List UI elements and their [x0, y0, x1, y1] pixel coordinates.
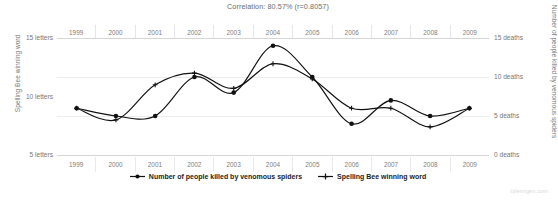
- left-tick-15: 15 letters: [26, 34, 53, 41]
- series-line: [77, 46, 470, 125]
- top-year-axis: 1999200020012002200320042005200620072008…: [57, 25, 489, 39]
- data-point[interactable]: [114, 118, 119, 123]
- top-year-2008: 2008: [410, 25, 449, 39]
- bottom-year-2009: 2009: [450, 157, 489, 172]
- top-year-1999: 1999: [57, 25, 95, 39]
- data-point[interactable]: [271, 44, 276, 49]
- data-point[interactable]: [192, 71, 197, 76]
- series-line: [77, 64, 470, 127]
- series-layer: [57, 38, 489, 155]
- right-tick-5: 5 deaths: [494, 112, 519, 119]
- data-point[interactable]: [388, 106, 393, 111]
- data-point[interactable]: [349, 122, 354, 127]
- bottom-year-2005: 2005: [292, 157, 331, 172]
- data-point[interactable]: [231, 86, 236, 91]
- bottom-year-1999: 1999: [57, 157, 95, 172]
- top-year-2001: 2001: [135, 25, 174, 39]
- legend-item-1[interactable]: Spelling Bee winning word: [318, 172, 426, 181]
- top-year-2002: 2002: [174, 25, 213, 39]
- bottom-year-2004: 2004: [253, 157, 292, 172]
- bottom-year-axis: 1999200020012002200320042005200620072008…: [57, 157, 489, 172]
- bottom-year-2007: 2007: [371, 157, 410, 172]
- plus-marker-icon: [318, 172, 333, 181]
- top-year-2000: 2000: [95, 25, 134, 39]
- left-tick-10: 10 letters: [26, 93, 53, 100]
- bottom-year-2006: 2006: [332, 157, 371, 172]
- top-year-2006: 2006: [332, 25, 371, 39]
- plot-area: [57, 38, 489, 155]
- left-tick-5: 5 letters: [30, 151, 53, 158]
- data-point[interactable]: [271, 61, 276, 66]
- bottom-year-2000: 2000: [95, 157, 134, 172]
- data-point[interactable]: [428, 125, 433, 130]
- data-point[interactable]: [231, 90, 236, 95]
- top-year-2007: 2007: [371, 25, 410, 39]
- data-point[interactable]: [467, 106, 472, 111]
- legend-item-0[interactable]: Number of people killed by venomous spid…: [130, 172, 302, 181]
- bottom-year-2008: 2008: [410, 157, 449, 172]
- bottom-year-2001: 2001: [135, 157, 174, 172]
- round-marker-icon: [130, 172, 145, 181]
- top-year-2009: 2009: [450, 25, 489, 39]
- right-tick-10: 10 deaths: [494, 73, 523, 80]
- right-tick-15: 15 deaths: [494, 34, 523, 41]
- data-point[interactable]: [153, 114, 158, 119]
- legend-label-0: Number of people killed by venomous spid…: [149, 173, 302, 180]
- top-year-2004: 2004: [253, 25, 292, 39]
- top-year-2005: 2005: [292, 25, 331, 39]
- series-spiders: [74, 44, 471, 127]
- chart-title: Correlation: 80.57% (r=0.8057): [0, 2, 556, 11]
- data-point[interactable]: [428, 114, 433, 119]
- data-point[interactable]: [349, 106, 354, 111]
- right-axis-title: Number of people killed by venomous spid…: [551, 0, 558, 152]
- bottom-year-2003: 2003: [213, 157, 252, 172]
- legend-label-1: Spelling Bee winning word: [337, 173, 426, 180]
- watermark: tylervigen.com: [510, 188, 548, 194]
- bottom-year-2002: 2002: [174, 157, 213, 172]
- top-year-2003: 2003: [213, 25, 252, 39]
- chart-legend: Number of people killed by venomous spid…: [0, 172, 556, 181]
- right-tick-0: 0 deaths: [494, 151, 519, 158]
- data-point[interactable]: [74, 106, 79, 111]
- data-point[interactable]: [389, 98, 394, 103]
- gridline-bottom: [57, 155, 489, 156]
